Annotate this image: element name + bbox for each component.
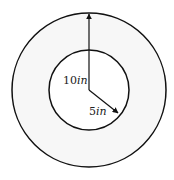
annulus-diagram: 10in 5in	[0, 0, 174, 180]
inner-radius-label: 5in	[89, 105, 107, 118]
outer-radius-label: 10in	[63, 74, 88, 87]
